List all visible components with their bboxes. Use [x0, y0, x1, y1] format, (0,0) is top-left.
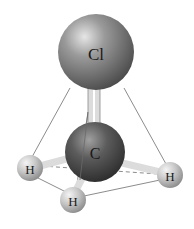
atom-label-c: C	[90, 145, 101, 162]
atom-h-left: H	[17, 155, 43, 181]
molecule-diagram: Cl C H H H	[0, 0, 194, 229]
atom-label-h-right: H	[165, 169, 174, 184]
atom-h-bottom: H	[60, 187, 86, 213]
atom-h-right: H	[157, 162, 183, 188]
atom-c: C	[65, 122, 125, 182]
atom-label-h-left: H	[25, 162, 34, 177]
atom-label-cl: Cl	[88, 45, 104, 64]
atom-label-h-bottom: H	[68, 194, 77, 209]
molecule-svg: Cl C H H H	[0, 0, 194, 229]
atom-cl: Cl	[58, 14, 134, 90]
